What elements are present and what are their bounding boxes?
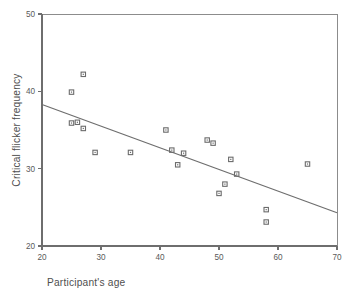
y-tick-label-20: 20 [26,242,36,251]
x-tick-label-70: 70 [332,253,342,262]
x-axis-title: Participant's age [47,277,126,288]
x-tick-label-40: 40 [155,253,165,262]
y-tick-label-40: 40 [26,87,36,96]
chart-figure: 50 40 30 20 20 30 40 50 60 70 Participan… [0,0,349,297]
x-tick-label-50: 50 [214,253,224,262]
y-tick-label-50: 50 [26,10,36,19]
x-tick-label-60: 60 [273,253,283,262]
y-axis-title: Critical flicker frequency [11,73,22,187]
x-tick-label-20: 20 [37,253,47,262]
x-tick-label-30: 30 [96,253,106,262]
y-tick-label-30: 30 [26,165,36,174]
scatter-plot: 50 40 30 20 20 30 40 50 60 70 Participan… [0,0,349,297]
